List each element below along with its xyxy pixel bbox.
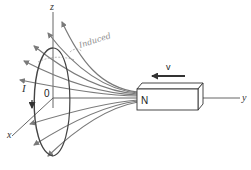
axes xyxy=(12,12,240,136)
current-label: I xyxy=(21,82,27,94)
field-line xyxy=(34,101,138,145)
loop-back xyxy=(53,48,70,156)
y-axis-label: y xyxy=(241,92,247,103)
induction-diagram: Induced N v z y x 0 I xyxy=(0,0,251,170)
velocity-label: v xyxy=(166,62,171,72)
bar-magnet: N xyxy=(137,83,203,110)
velocity-indicator: v xyxy=(152,62,185,76)
loop-front xyxy=(34,48,53,156)
north-pole-label: N xyxy=(141,95,148,106)
x-axis-label: x xyxy=(6,129,12,140)
field-line xyxy=(62,22,138,92)
magnet-top-face xyxy=(137,83,203,89)
induced-label: Induced xyxy=(77,31,112,50)
induced-field-scribble xyxy=(38,49,82,62)
origin-label: 0 xyxy=(44,88,50,99)
z-axis-label: z xyxy=(49,1,54,12)
conducting-loop xyxy=(32,48,70,156)
